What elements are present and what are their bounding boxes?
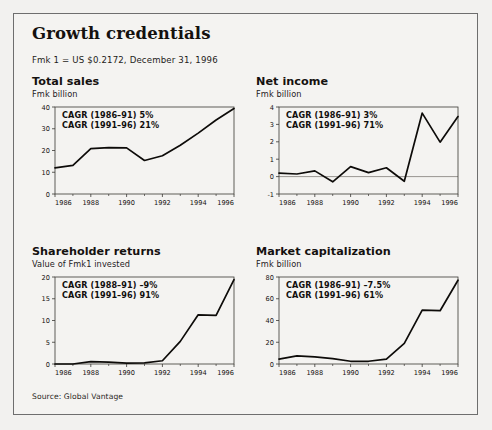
svg-text:1994: 1994 <box>414 369 431 377</box>
svg-text:-1: -1 <box>267 191 274 199</box>
panel-unit-label: Fmk billion <box>256 89 461 99</box>
svg-text:1988: 1988 <box>306 369 323 377</box>
panel-title: Net income <box>256 76 461 88</box>
svg-text:15: 15 <box>42 295 50 303</box>
chart-net-income: -101234198619881990199219941996 CAGR (19… <box>256 102 461 214</box>
chart-svg: -101234198619881990199219941996 <box>256 102 461 214</box>
report-frame: Growth credentials Fmk 1 = US $0.2172, D… <box>13 13 478 415</box>
svg-text:1990: 1990 <box>118 199 135 207</box>
svg-text:1986: 1986 <box>55 199 72 207</box>
svg-text:80: 80 <box>266 274 274 282</box>
svg-text:40: 40 <box>42 104 50 112</box>
chart-total-sales: 010203040198619881990199219941996 CAGR (… <box>32 102 237 214</box>
currency-note: Fmk 1 = US $0.2172, December 31, 1996 <box>32 55 218 65</box>
svg-text:1996: 1996 <box>217 199 234 207</box>
svg-text:20: 20 <box>42 147 50 155</box>
svg-text:1986: 1986 <box>279 199 296 207</box>
panel-title: Market capitalization <box>256 246 461 258</box>
svg-text:1986: 1986 <box>55 369 72 377</box>
panel-net-income: Net income Fmk billion -1012341986198819… <box>256 76 461 214</box>
panel-title: Shareholder returns <box>32 246 237 258</box>
svg-text:40: 40 <box>266 317 274 325</box>
panel-market-capitalization: Market capitalization Fmk billion 020406… <box>256 246 461 384</box>
svg-text:1992: 1992 <box>154 369 171 377</box>
svg-text:20: 20 <box>266 339 274 347</box>
svg-text:1992: 1992 <box>378 369 395 377</box>
svg-text:1990: 1990 <box>118 369 135 377</box>
svg-text:1996: 1996 <box>441 199 458 207</box>
chart-svg: 020406080198619881990199219941996 <box>256 272 461 384</box>
svg-text:1994: 1994 <box>414 199 431 207</box>
source-note: Source: Global Vantage <box>32 392 123 401</box>
svg-text:0: 0 <box>46 191 50 199</box>
svg-text:10: 10 <box>42 169 50 177</box>
panel-shareholder-returns: Shareholder returns Value of Fmk1 invest… <box>32 246 237 384</box>
svg-text:0: 0 <box>270 173 274 181</box>
chart-svg: 010203040198619881990199219941996 <box>32 102 237 214</box>
figure-page: Growth credentials Fmk 1 = US $0.2172, D… <box>0 0 492 430</box>
svg-text:3: 3 <box>270 121 274 129</box>
svg-text:1994: 1994 <box>190 199 207 207</box>
svg-text:1990: 1990 <box>342 199 359 207</box>
svg-text:4: 4 <box>270 104 274 112</box>
svg-text:1988: 1988 <box>82 369 99 377</box>
svg-text:20: 20 <box>42 274 50 282</box>
chart-market-capitalization: 020406080198619881990199219941996 CAGR (… <box>256 272 461 384</box>
svg-text:1996: 1996 <box>217 369 234 377</box>
svg-text:1990: 1990 <box>342 369 359 377</box>
svg-text:5: 5 <box>46 339 50 347</box>
svg-text:1988: 1988 <box>82 199 99 207</box>
svg-text:1992: 1992 <box>378 199 395 207</box>
svg-text:0: 0 <box>270 361 274 369</box>
svg-text:1986: 1986 <box>279 369 296 377</box>
svg-text:1988: 1988 <box>306 199 323 207</box>
svg-text:60: 60 <box>266 295 274 303</box>
svg-text:0: 0 <box>46 361 50 369</box>
svg-text:1: 1 <box>270 156 274 164</box>
svg-text:30: 30 <box>42 125 50 133</box>
panel-unit-label: Fmk billion <box>256 259 461 269</box>
panel-title: Total sales <box>32 76 237 88</box>
chart-shareholder-returns: 05101520198619881990199219941996 CAGR (1… <box>32 272 237 384</box>
page-title: Growth credentials <box>32 24 211 43</box>
chart-svg: 05101520198619881990199219941996 <box>32 272 237 384</box>
svg-text:1996: 1996 <box>441 369 458 377</box>
svg-text:10: 10 <box>42 317 50 325</box>
panel-unit-label: Value of Fmk1 invested <box>32 259 237 269</box>
svg-text:1994: 1994 <box>190 369 207 377</box>
panel-total-sales: Total sales Fmk billion 0102030401986198… <box>32 76 237 214</box>
panel-unit-label: Fmk billion <box>32 89 237 99</box>
svg-text:2: 2 <box>270 138 274 146</box>
svg-text:1992: 1992 <box>154 199 171 207</box>
